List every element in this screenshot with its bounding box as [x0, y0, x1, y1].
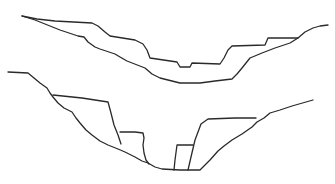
upper-valley-profile [22, 16, 328, 83]
upper-inner-line [22, 16, 298, 83]
lower-small-block-line [120, 132, 149, 164]
lower-valley-profile [8, 72, 313, 170]
lower-right-block-line [188, 118, 256, 170]
lower-center-box-line [174, 145, 193, 170]
lower-main-profile-line [8, 72, 313, 170]
valley-sketch-canvas [0, 0, 335, 184]
upper-outer-line [22, 16, 328, 67]
lower-left-block-line [53, 95, 121, 144]
